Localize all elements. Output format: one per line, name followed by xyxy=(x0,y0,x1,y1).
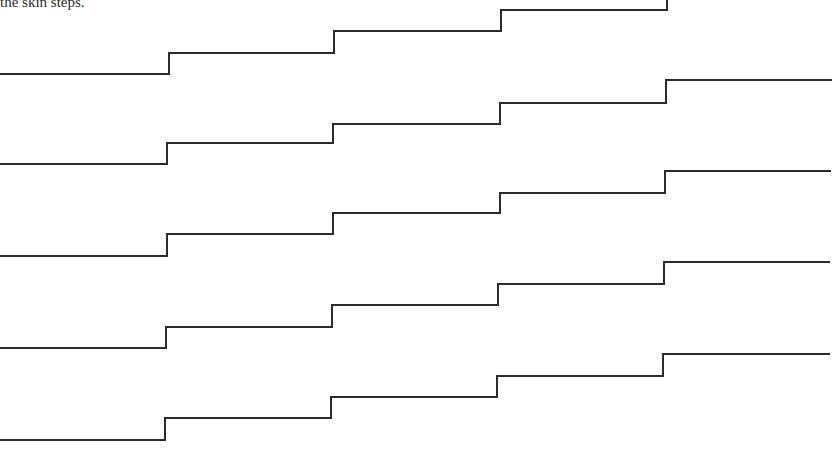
step-line-5 xyxy=(0,354,830,440)
step-line-1 xyxy=(0,0,667,74)
staircase-figure xyxy=(0,0,835,450)
step-line-4 xyxy=(0,262,830,348)
step-line-3 xyxy=(0,171,831,256)
step-lines-group xyxy=(0,0,832,440)
step-line-2 xyxy=(0,80,832,164)
